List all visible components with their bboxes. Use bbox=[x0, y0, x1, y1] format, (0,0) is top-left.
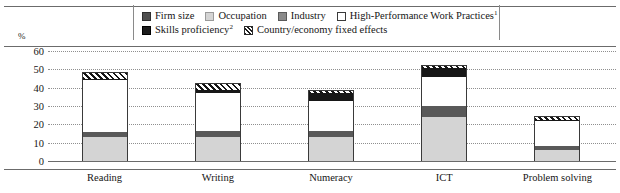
segment-hpwp[interactable] bbox=[535, 121, 579, 147]
bar-slot-writing bbox=[161, 47, 274, 171]
legend-item-hpwp: High-Performance Work Practices1 bbox=[337, 10, 498, 22]
y-tick-20: 20 bbox=[34, 119, 45, 130]
hpwp-swatch bbox=[337, 12, 346, 21]
y-tick-10: 10 bbox=[34, 137, 45, 148]
segment-firm-size[interactable] bbox=[422, 106, 466, 117]
segment-hpwp[interactable] bbox=[83, 80, 127, 131]
legend-label-skills-text: Skills proficiency bbox=[155, 24, 229, 35]
legend-item-firm-size: Firm size bbox=[142, 10, 194, 22]
bar-group bbox=[48, 47, 614, 171]
firm-size-swatch bbox=[142, 12, 151, 21]
legend-footnote-marker-1: 1 bbox=[494, 9, 498, 17]
x-tick-reading: Reading bbox=[48, 172, 161, 190]
stacked-bar-ict[interactable] bbox=[421, 65, 467, 161]
legend-label-hpwp-text: High-Performance Work Practices bbox=[350, 10, 494, 21]
segment-occupation[interactable] bbox=[83, 137, 127, 161]
stacked-bar-numeracy[interactable] bbox=[308, 90, 354, 161]
legend-label-occupation: Occupation bbox=[218, 10, 266, 22]
bar-slot-numeracy bbox=[274, 47, 387, 171]
legend-item-occupation: Occupation bbox=[205, 10, 266, 22]
segment-occupation[interactable] bbox=[535, 150, 579, 161]
segment-hpwp[interactable] bbox=[196, 93, 240, 131]
legend-item-industry: Industry bbox=[278, 10, 326, 22]
y-tick-50: 50 bbox=[34, 64, 45, 75]
bar-slot-reading bbox=[48, 47, 161, 171]
skills-proficiency-swatch bbox=[142, 26, 151, 35]
legend-label-skills-proficiency: Skills proficiency2 bbox=[155, 24, 233, 36]
x-tick-ict: ICT bbox=[388, 172, 501, 190]
y-tick-60: 60 bbox=[34, 46, 45, 57]
segment-occupation[interactable] bbox=[196, 137, 240, 161]
country-fixed-effects-swatch bbox=[244, 26, 253, 35]
legend-label-hpwp: High-Performance Work Practices1 bbox=[350, 10, 498, 22]
legend-item-country-fixed-effects: Country/economy fixed effects bbox=[244, 24, 387, 36]
segment-occupation[interactable] bbox=[309, 137, 353, 161]
segment-occupation[interactable] bbox=[422, 117, 466, 161]
y-tick-0: 0 bbox=[39, 156, 44, 167]
segment-skills-proficiency[interactable] bbox=[422, 68, 466, 77]
legend-row-2: Skills proficiency2 Country/economy fixe… bbox=[142, 23, 499, 37]
figure-container: Firm size Occupation Industry High-Perfo… bbox=[0, 0, 620, 193]
y-tick-40: 40 bbox=[34, 82, 45, 93]
x-axis-tick-labels: ReadingWritingNumeracyICTProblem solving bbox=[48, 172, 614, 190]
legend-label-firm-size: Firm size bbox=[155, 10, 194, 22]
chart-legend: Firm size Occupation Industry High-Perfo… bbox=[133, 5, 500, 40]
industry-swatch bbox=[278, 12, 287, 21]
plot-area: 6050403020100 bbox=[4, 46, 616, 170]
segment-skills-proficiency[interactable] bbox=[309, 93, 353, 100]
legend-footnote-marker-2: 2 bbox=[229, 23, 233, 31]
occupation-swatch bbox=[205, 12, 214, 21]
y-axis-tick-labels: 6050403020100 bbox=[4, 47, 48, 171]
stacked-bar-problem-solving[interactable] bbox=[534, 116, 580, 161]
stacked-bar-reading[interactable] bbox=[82, 72, 128, 161]
bar-slot-problem-solving bbox=[501, 47, 614, 171]
legend-label-industry: Industry bbox=[291, 10, 326, 22]
x-tick-problem-solving: Problem solving bbox=[501, 172, 614, 190]
x-tick-writing: Writing bbox=[161, 172, 274, 190]
y-tick-30: 30 bbox=[34, 101, 45, 112]
stacked-bar-writing[interactable] bbox=[195, 83, 241, 161]
bar-slot-ict bbox=[388, 47, 501, 171]
segment-hpwp[interactable] bbox=[422, 77, 466, 106]
segment-hpwp[interactable] bbox=[309, 101, 353, 131]
x-tick-numeracy: Numeracy bbox=[274, 172, 387, 190]
y-axis-unit-label: % bbox=[18, 31, 26, 41]
legend-item-skills-proficiency: Skills proficiency2 bbox=[142, 24, 233, 36]
legend-row-1: Firm size Occupation Industry High-Perfo… bbox=[142, 9, 499, 23]
legend-label-country-fixed-effects: Country/economy fixed effects bbox=[257, 24, 387, 36]
